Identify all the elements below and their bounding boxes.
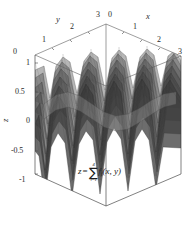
y-tick-label-0: 0 <box>13 48 17 56</box>
y-tick-label-1: 1 <box>42 36 46 44</box>
z-tick-label-0p5: 0.5 <box>15 88 25 96</box>
y-axis-title: y <box>56 15 60 24</box>
z-tick-label-0: 0 <box>26 117 30 125</box>
z-axis-title: z <box>1 119 10 122</box>
z-tick-label-neg0p5: -0.5 <box>11 147 23 155</box>
formula-lhs: z <box>78 166 82 176</box>
z-tick-label-neg1: -1 <box>19 176 25 184</box>
x-tick-label-3: 3 <box>178 48 182 56</box>
formula-annotation: z=4∑i=1fi(x, y) <box>78 162 121 182</box>
x-axis-title: x <box>146 12 150 21</box>
z-tick-label-1: 1 <box>26 59 30 67</box>
x-tick-label-2: 2 <box>157 36 161 44</box>
summation-operator: 4∑i=1 <box>89 163 98 183</box>
y-tick-label-2: 2 <box>70 23 74 31</box>
formula-equals-sign: = <box>82 166 89 176</box>
surface-plot-figure: 0 1 2 3 0 1 2 3 1 0.5 0 -0.5 -1 y x z z=… <box>0 0 189 232</box>
x-tick-label-1: 1 <box>133 23 137 31</box>
x-tick-label-0: 0 <box>108 11 112 19</box>
y-tick-label-3: 3 <box>96 11 100 19</box>
formula-function-arguments: (x, y) <box>102 166 120 176</box>
